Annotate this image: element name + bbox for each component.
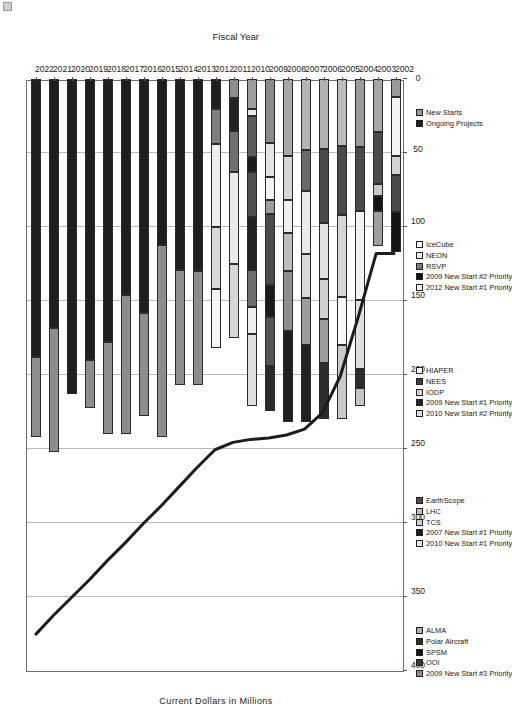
legend-item[interactable]: NEON bbox=[416, 251, 512, 260]
legend-item[interactable]: IODP bbox=[416, 388, 512, 397]
category-tick bbox=[54, 77, 55, 81]
category-label: 2010 bbox=[251, 64, 270, 74]
category-tick bbox=[342, 77, 343, 81]
legend-swatch bbox=[416, 120, 423, 127]
legend-swatch bbox=[416, 649, 423, 656]
category-label: 2022 bbox=[35, 64, 54, 74]
category-label: 2004 bbox=[359, 64, 378, 74]
legend-item[interactable]: IceCube bbox=[416, 240, 512, 249]
category-tick bbox=[144, 77, 145, 81]
category-tick bbox=[252, 77, 253, 81]
value-tick-mark bbox=[403, 670, 407, 671]
legend-label: NEES bbox=[426, 377, 446, 386]
legend-label: HIAPER bbox=[426, 366, 454, 375]
legend-label: IODP bbox=[426, 388, 444, 397]
legend-item[interactable]: ALMA bbox=[416, 626, 512, 635]
legend-item[interactable]: SPSM bbox=[416, 648, 512, 657]
legend-swatch bbox=[416, 378, 423, 385]
legend-item[interactable]: LHC bbox=[416, 507, 512, 516]
category-label: 2011 bbox=[233, 64, 251, 74]
value-tick-mark bbox=[403, 522, 407, 523]
category-label: 2009 bbox=[269, 64, 288, 74]
legend-item[interactable]: 2009 New Start #3 Priority bbox=[416, 669, 512, 678]
legend-item[interactable]: New Starts bbox=[416, 108, 483, 117]
value-tick-mark bbox=[403, 152, 407, 153]
legend-swatch bbox=[416, 241, 423, 248]
value-tick-mark bbox=[403, 596, 407, 597]
category-label: 2008 bbox=[287, 64, 306, 74]
category-tick bbox=[288, 77, 289, 81]
category-tick bbox=[162, 77, 163, 81]
category-label: 2002 bbox=[395, 64, 414, 74]
legend-item[interactable]: TCS bbox=[416, 518, 512, 527]
legend-alma: ALMAPolar AircraftSPSMOOI2009 New Start … bbox=[416, 530, 468, 626]
category-tick bbox=[270, 77, 271, 81]
legend-swatch bbox=[416, 252, 423, 259]
legend-swatch bbox=[416, 389, 423, 396]
legend-item[interactable]: OOI bbox=[416, 658, 512, 667]
category-tick bbox=[306, 77, 307, 81]
category-tick bbox=[108, 77, 109, 81]
category-label: 2007 bbox=[305, 64, 324, 74]
value-axis-title: Current Dollars in Millions bbox=[0, 696, 432, 710]
category-tick bbox=[360, 77, 361, 81]
legend-label: LHC bbox=[426, 507, 441, 516]
legend-label: SPSM bbox=[426, 648, 447, 657]
category-tick bbox=[216, 77, 217, 81]
category-tick bbox=[36, 77, 37, 81]
category-axis-title-text: Fiscal Year bbox=[213, 31, 259, 42]
legend-label: Ongoing Projects bbox=[426, 119, 483, 128]
legend-swatch bbox=[416, 659, 423, 666]
category-tick bbox=[90, 77, 91, 81]
legend-label: ALMA bbox=[426, 626, 446, 635]
category-tick bbox=[234, 77, 235, 81]
value-tick-mark bbox=[403, 226, 407, 227]
category-tick bbox=[324, 77, 325, 81]
value-tick-mark bbox=[403, 374, 407, 375]
category-axis-title: Fiscal Year bbox=[213, 31, 259, 42]
legend-swatch bbox=[416, 638, 423, 645]
legend-earthscope: EarthScopeLHCTCS2007 New Start #1 Priori… bbox=[416, 400, 468, 496]
legend-item[interactable]: NEES bbox=[416, 377, 512, 386]
category-label: 2018 bbox=[107, 64, 126, 74]
plot-area: 050100150200250300350400 200220032004200… bbox=[26, 80, 404, 672]
legend-swatch bbox=[416, 263, 423, 270]
category-tick bbox=[126, 77, 127, 81]
category-tick bbox=[396, 77, 397, 81]
legend-label: IceCube bbox=[426, 240, 454, 249]
legend-label: EarthScope bbox=[426, 496, 465, 505]
legend-item[interactable]: Ongoing Projects bbox=[416, 119, 483, 128]
legend-item[interactable]: EarthScope bbox=[416, 496, 512, 505]
budget-ceiling-line bbox=[36, 254, 394, 635]
category-tick bbox=[198, 77, 199, 81]
legend-label: NEON bbox=[426, 251, 447, 260]
legend-icecube: IceCubeNEONRSVP2009 New Start #2 Priorit… bbox=[416, 144, 468, 240]
category-label: 2006 bbox=[323, 64, 342, 74]
legend-label: TCS bbox=[426, 518, 441, 527]
legend-swatch bbox=[416, 497, 423, 504]
value-tick-mark bbox=[403, 78, 407, 79]
legend-swatch bbox=[416, 508, 423, 515]
category-label: 2016 bbox=[143, 64, 162, 74]
category-tick bbox=[72, 77, 73, 81]
legend-label: New Starts bbox=[426, 108, 462, 117]
legend-item[interactable]: HIAPER bbox=[416, 366, 512, 375]
category-label: 2003 bbox=[377, 64, 396, 74]
legend-item[interactable]: Polar Aircraft bbox=[416, 637, 512, 646]
legend-label: OOI bbox=[426, 658, 440, 667]
category-label: 2012 bbox=[215, 64, 234, 74]
category-label: 2013 bbox=[197, 64, 216, 74]
legend-label: 2009 New Start #3 Priority bbox=[426, 669, 512, 678]
legend-swatch bbox=[416, 109, 423, 116]
trend-line-layer bbox=[27, 81, 403, 671]
category-label: 2005 bbox=[341, 64, 360, 74]
legend-swatch bbox=[416, 367, 423, 374]
category-label: 2017 bbox=[125, 64, 144, 74]
legend-hiaper: HIAPERNEESIODP2009 New Start #1 Priority… bbox=[416, 270, 468, 366]
category-label: 2014 bbox=[179, 64, 198, 74]
value-tick-mark bbox=[403, 300, 407, 301]
legend-swatch bbox=[416, 670, 423, 677]
legend-new-starts: New StartsOngoing Projects bbox=[416, 41, 436, 108]
